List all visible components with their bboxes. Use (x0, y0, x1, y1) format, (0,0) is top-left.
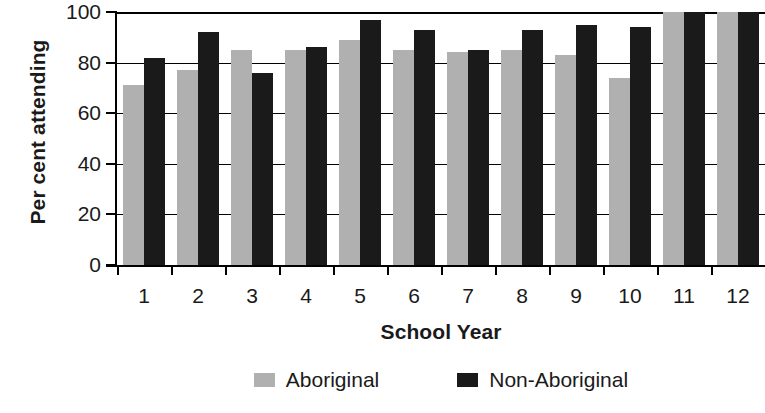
bars-clip-region (117, 12, 765, 265)
y-tick-mark (106, 163, 117, 165)
bar (414, 30, 435, 265)
chart-legend: AboriginalNon-Aboriginal (117, 368, 765, 392)
bar (609, 78, 630, 265)
x-tick-label: 6 (408, 284, 420, 308)
x-axis-title: School Year (117, 320, 765, 344)
y-tick-mark (106, 112, 117, 114)
y-tick-mark (106, 62, 117, 64)
x-tick-label: 5 (354, 284, 366, 308)
x-tick-label: 8 (516, 284, 528, 308)
bar (717, 12, 738, 265)
x-tick-label: 12 (726, 284, 749, 308)
y-tick-label: 0 (89, 253, 101, 277)
bar (306, 47, 327, 265)
bar (123, 85, 144, 265)
y-tick-mark (106, 264, 117, 266)
legend-label: Non-Aboriginal (489, 368, 628, 392)
bar (231, 50, 252, 265)
y-tick-mark (106, 213, 117, 215)
x-tick-mark (225, 265, 227, 275)
x-tick-label: 9 (570, 284, 582, 308)
y-tick-label: 80 (78, 51, 101, 75)
bar (738, 12, 759, 265)
bar (447, 52, 468, 265)
x-tick-mark (657, 265, 659, 275)
x-tick-label: 11 (673, 284, 695, 308)
x-tick-mark (117, 265, 119, 275)
bar (144, 58, 165, 265)
bar (501, 50, 522, 265)
x-tick-label: 2 (192, 284, 204, 308)
legend-swatch-icon (457, 373, 478, 387)
x-tick-label: 3 (246, 284, 258, 308)
x-tick-mark (441, 265, 443, 275)
y-tick-label: 60 (78, 101, 101, 125)
bar (285, 50, 306, 265)
x-tick-mark (279, 265, 281, 275)
bar (663, 12, 684, 265)
x-tick-mark (333, 265, 335, 275)
x-tick-label: 1 (138, 284, 150, 308)
y-tick-label: 20 (78, 202, 101, 226)
x-tick-label: 7 (462, 284, 474, 308)
bar (177, 70, 198, 265)
bar (252, 73, 273, 265)
legend-entry: Aboriginal (254, 368, 379, 392)
plot-area: 020406080100 123456789101112 (117, 12, 765, 265)
bar (684, 12, 705, 265)
bar (339, 40, 360, 265)
bar (393, 50, 414, 265)
bar (360, 20, 381, 265)
x-tick-mark (711, 265, 713, 275)
x-tick-label: 4 (300, 284, 312, 308)
bar (630, 27, 651, 265)
x-tick-mark (387, 265, 389, 275)
x-tick-mark (495, 265, 497, 275)
legend-swatch-icon (254, 373, 275, 387)
x-tick-mark (603, 265, 605, 275)
x-tick-label: 10 (618, 284, 641, 308)
bar-chart-figure: Per cent attending 020406080100 12345678… (0, 0, 765, 413)
bar (198, 32, 219, 265)
y-tick-label: 40 (78, 152, 101, 176)
legend-label: Aboriginal (286, 368, 379, 392)
y-tick-mark (106, 11, 117, 13)
bar (576, 25, 597, 265)
bar (522, 30, 543, 265)
bar (555, 55, 576, 265)
y-axis-title: Per cent attending (26, 2, 50, 262)
x-tick-mark (171, 265, 173, 275)
legend-entry: Non-Aboriginal (457, 368, 628, 392)
y-tick-label: 100 (66, 0, 101, 24)
x-tick-mark (549, 265, 551, 275)
bar (468, 50, 489, 265)
